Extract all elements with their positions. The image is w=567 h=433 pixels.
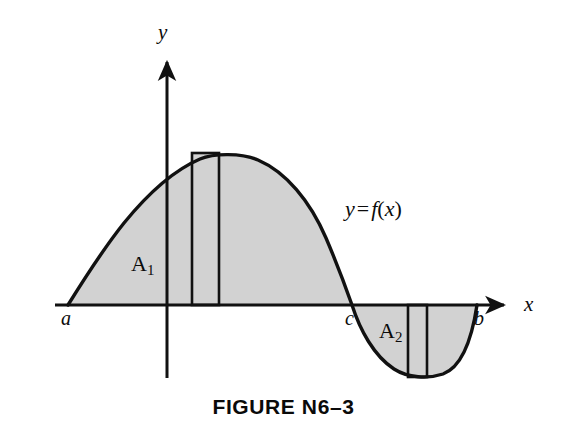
- equation-y: y: [345, 196, 355, 221]
- equation-equals: =: [355, 196, 371, 221]
- area-label-A1-letter: A: [131, 251, 147, 276]
- figure-caption: FIGURE N6–3: [0, 395, 567, 419]
- x-axis-label: x: [524, 294, 533, 315]
- curve-equation-label: y=f(x): [345, 198, 402, 220]
- area-label-A2: A2: [379, 320, 402, 345]
- figure-container: y x a c b A1 A2 y=f(x) FIGURE N6–3: [0, 0, 567, 433]
- y-axis-label: y: [158, 22, 167, 43]
- function-graph-figure: [0, 0, 567, 433]
- area-label-A1-subscript: 1: [147, 262, 154, 278]
- riemann-strip-A1: [192, 153, 219, 305]
- equation-open-paren: (: [377, 196, 384, 221]
- point-label-b: b: [474, 308, 484, 328]
- area-label-A2-subscript: 2: [395, 329, 402, 345]
- riemann-strip-A2: [408, 305, 427, 377]
- area-label-A1: A1: [131, 253, 154, 278]
- point-label-a: a: [61, 308, 71, 328]
- point-label-c: c: [345, 308, 354, 328]
- equation-close-paren: ): [394, 196, 401, 221]
- area-label-A2-letter: A: [379, 318, 395, 343]
- equation-x: x: [385, 196, 395, 221]
